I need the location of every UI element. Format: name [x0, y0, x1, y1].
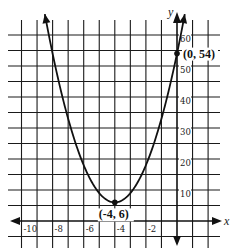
point-label: (-4, 6)	[99, 207, 129, 221]
x-axis-label: x	[223, 214, 230, 228]
x-tick-label: -4	[117, 224, 125, 234]
tick-labels: -10-8-6-4-2102030405060	[24, 34, 192, 234]
y-tick-label: 50	[180, 65, 191, 75]
y-tick-label: 40	[180, 96, 191, 106]
point-marker	[174, 51, 180, 57]
x-tick-label: -6	[86, 224, 94, 234]
x-tick-label: -10	[24, 224, 38, 234]
x-axis-left-arrow-icon	[10, 217, 20, 225]
parabola-chart: -10-8-6-4-2102030405060 (-4, 6)(0, 54) x…	[0, 0, 232, 248]
y-tick-label: 20	[180, 158, 191, 168]
y-tick-label: 30	[180, 127, 191, 137]
curve-right-arrow-icon	[179, 14, 187, 24]
x-tick-label: -8	[55, 224, 63, 234]
y-axis-label: y	[167, 5, 174, 19]
y-tick-label: 60	[180, 34, 191, 44]
x-axis-right-arrow-icon	[212, 217, 222, 225]
y-tick-label: 10	[180, 189, 191, 199]
curve-left-arrow-icon	[43, 14, 51, 24]
point-marker	[112, 200, 118, 206]
x-tick-label: -2	[148, 224, 156, 234]
point-label: (0, 54)	[183, 47, 215, 61]
y-axis-down-arrow-icon	[173, 236, 181, 246]
